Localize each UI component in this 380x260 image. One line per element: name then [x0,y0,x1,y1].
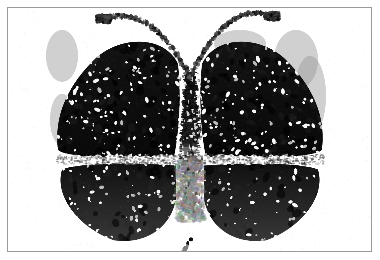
photo-frame [7,7,372,252]
image-figure [0,0,380,260]
butterfly-photograph [8,8,371,251]
image-caption [0,0,1,1]
